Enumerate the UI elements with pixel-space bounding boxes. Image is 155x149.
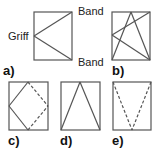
- panel-b-drawing: [112, 12, 150, 60]
- panel-a-label: a): [3, 63, 15, 78]
- panel-c-label: c): [8, 133, 20, 148]
- band-bottom-label: Band: [78, 56, 104, 68]
- panel-a-drawing: [34, 12, 72, 60]
- panel-c-drawing: [9, 82, 48, 130]
- window-diagram: [0, 0, 155, 149]
- panel-d-label: d): [60, 133, 72, 148]
- panel-e-label: e): [112, 133, 124, 148]
- panel-b-label: b): [112, 63, 124, 78]
- panel-d-drawing: [61, 82, 100, 130]
- griff-label: Griff: [8, 30, 29, 42]
- band-top-label: Band: [78, 5, 104, 17]
- panel-e-drawing: [113, 82, 151, 130]
